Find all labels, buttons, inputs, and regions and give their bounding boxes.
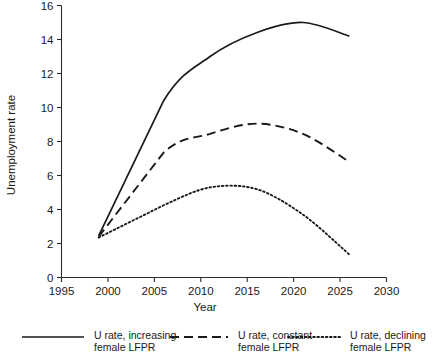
- x-tick-label: 2025: [327, 285, 353, 297]
- legend-label-line1: U rate, increasing: [94, 329, 176, 341]
- y-tick-label: 14: [41, 34, 54, 46]
- y-tick-label: 8: [47, 136, 53, 148]
- x-tick-label: 2000: [95, 285, 121, 297]
- y-tick-label: 2: [47, 238, 53, 250]
- y-tick-label: 16: [41, 0, 54, 12]
- x-tick-label: 2020: [281, 285, 307, 297]
- y-axis-title: Unemployment rate: [5, 95, 17, 195]
- legend-label-line1: U rate, constant: [238, 329, 312, 341]
- legend-label-line2: female LFPR: [350, 341, 412, 353]
- x-tick-label: 2010: [188, 285, 214, 297]
- y-tick-label: 10: [41, 102, 54, 114]
- x-tick-label: 2030: [374, 285, 400, 297]
- x-axis-title: Year: [193, 301, 216, 313]
- legend-label-line2: female LFPR: [94, 341, 156, 353]
- y-tick-label: 0: [47, 272, 53, 284]
- y-tick-label: 12: [41, 68, 54, 80]
- y-tick-label: 4: [47, 204, 54, 216]
- unemployment-rate-line-chart: Unemployment rate 0246810121416 19952000…: [0, 0, 433, 358]
- legend-label-line2: female LFPR: [238, 341, 300, 353]
- x-tick-label: 1995: [49, 285, 75, 297]
- x-tick-label: 2015: [234, 285, 260, 297]
- x-tick-label: 2005: [142, 285, 168, 297]
- y-tick-label: 6: [47, 170, 53, 182]
- legend-label-line1: U rate, declining: [350, 329, 426, 341]
